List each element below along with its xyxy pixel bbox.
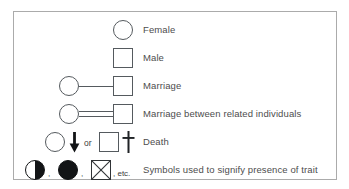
legend-label-trait-presence: Symbols used to signify presence of trai… <box>143 156 318 184</box>
filled-circle-icon <box>58 160 78 180</box>
pedigree-legend-frame: Female Male Marriage Marriage between re… <box>13 11 337 180</box>
open-circle-icon <box>113 20 133 40</box>
legend-or-text: or <box>84 128 92 156</box>
legend-label-consanguineous-marriage: Marriage between related individuals <box>143 100 301 128</box>
legend-row-female: Female <box>14 16 336 44</box>
legend-row-trait-presence: , , , etc. Symbols used to signify prese… <box>14 156 336 184</box>
marriage-line-icon <box>79 86 113 87</box>
open-circle-icon <box>59 104 79 124</box>
legend-row-death: or Death <box>14 128 336 156</box>
separator-comma: , <box>48 156 50 184</box>
legend-etc-text: , etc. <box>113 156 130 184</box>
open-circle-icon <box>45 132 65 152</box>
half-filled-circle-icon <box>25 160 45 180</box>
open-square-icon <box>113 104 133 124</box>
down-arrow-icon <box>69 132 80 153</box>
double-marriage-line-icon <box>79 111 113 117</box>
open-square-icon <box>99 132 119 152</box>
open-square-icon <box>113 48 133 68</box>
legend-label-death: Death <box>143 128 169 156</box>
crossed-square-icon <box>91 160 111 180</box>
legend-row-marriage: Marriage <box>14 72 336 100</box>
legend-label-male: Male <box>143 44 164 72</box>
legend-label-female: Female <box>143 16 175 44</box>
cross-icon <box>122 131 135 153</box>
legend-label-marriage: Marriage <box>143 72 181 100</box>
legend-row-consanguineous-marriage: Marriage between related individuals <box>14 100 336 128</box>
legend-row-male: Male <box>14 44 336 72</box>
open-square-icon <box>113 76 133 96</box>
open-circle-icon <box>59 76 79 96</box>
separator-comma: , <box>81 156 83 184</box>
